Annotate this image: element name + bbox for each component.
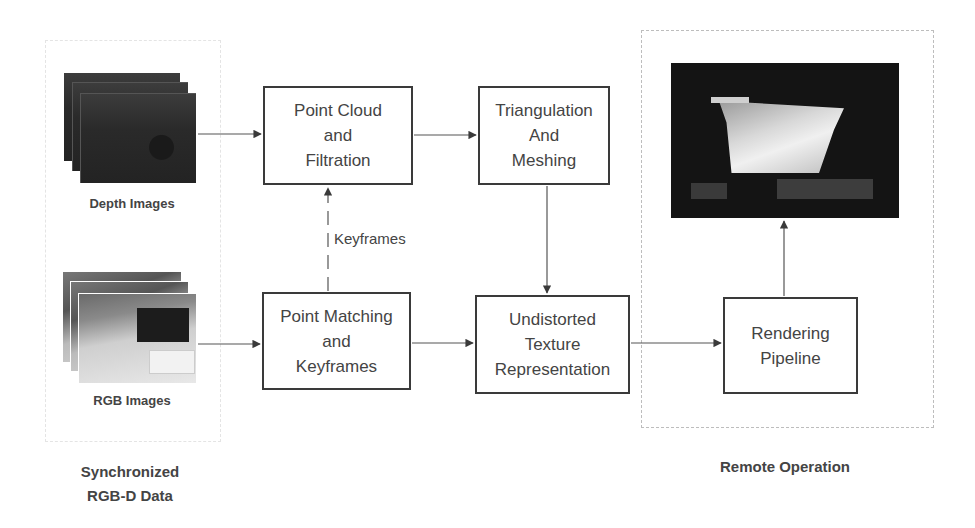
keyframes-edge-label: Keyframes (334, 230, 406, 247)
caption-line: RGB-D Data (40, 484, 220, 508)
edge-layer (0, 0, 975, 528)
synchronized-rgbd-caption: Synchronized RGB-D Data (40, 460, 220, 508)
remote-operation-caption: Remote Operation (680, 455, 890, 479)
caption-line: Synchronized (40, 460, 220, 484)
